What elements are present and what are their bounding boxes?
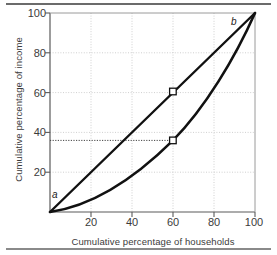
point-label-b: b — [231, 16, 237, 27]
line-of-equality — [50, 13, 255, 212]
marker-lorenz-60 — [170, 137, 177, 144]
plot-area — [0, 0, 277, 255]
point-label-a: a — [52, 189, 58, 200]
marker-equality-60 — [170, 88, 177, 95]
lorenz-curve-figure: Cumulative percentage of income Cumulati… — [0, 0, 277, 255]
